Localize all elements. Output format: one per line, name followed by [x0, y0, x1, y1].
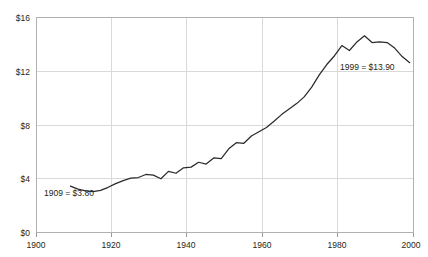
- data-line-value: [70, 36, 409, 192]
- x-tick-label-1920: 1920: [102, 240, 121, 250]
- chart-container: $16 $12 $8 $4 $0 1900 1920 1940 1960 198…: [0, 0, 428, 257]
- annotation-start-label: 1909 = $3.80: [44, 188, 94, 198]
- x-axis-labels: 1900 1920 1940 1960 1980 2000: [27, 240, 421, 250]
- y-tick-label-16: $16: [16, 13, 30, 23]
- x-tick-label-2000: 2000: [402, 240, 421, 250]
- x-tick-label-1980: 1980: [328, 240, 347, 250]
- y-tick-label-4: $4: [21, 174, 31, 184]
- x-tick-label-1960: 1960: [253, 240, 272, 250]
- y-tick-label-8: $8: [21, 121, 31, 131]
- x-tick-label-1900: 1900: [27, 240, 46, 250]
- y-tick-label-0: $0: [21, 228, 31, 238]
- y-tick-label-12: $12: [16, 67, 30, 77]
- x-tick-label-1940: 1940: [177, 240, 196, 250]
- annotation-end-label: 1999 = $13.90: [340, 62, 395, 72]
- line-chart-svg: $16 $12 $8 $4 $0 1900 1920 1940 1960 198…: [0, 0, 428, 257]
- x-axis-ticks: [37, 233, 414, 237]
- y-axis-labels: $16 $12 $8 $4 $0: [16, 13, 30, 238]
